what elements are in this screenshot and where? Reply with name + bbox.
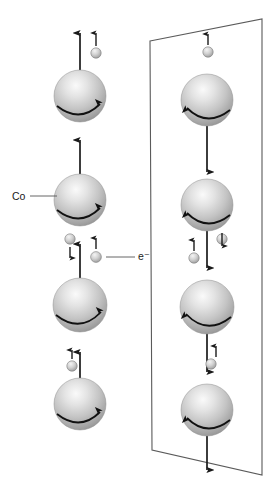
cobalt-sphere	[181, 74, 233, 126]
cobalt-sphere	[53, 278, 107, 332]
electron-sphere	[91, 48, 101, 58]
electron-with-spin	[91, 33, 101, 58]
electron-label: e⁻	[138, 250, 150, 262]
cobalt-sphere	[181, 179, 233, 231]
electron-sphere	[189, 253, 199, 263]
cobalt-sphere	[54, 70, 106, 122]
electron-with-spin	[217, 233, 227, 246]
cobalt-label: Co	[12, 190, 26, 202]
electron-with-spin	[189, 240, 199, 263]
electron-sphere	[65, 234, 75, 244]
cobalt-sphere	[181, 384, 233, 436]
diagram-canvas: Co e⁻	[0, 0, 270, 492]
electron-sphere	[206, 359, 216, 369]
electron-sphere	[67, 361, 77, 371]
electron-with-spin	[65, 234, 75, 258]
electron-sphere	[91, 252, 102, 263]
cobalt-sphere	[54, 378, 106, 430]
cobalt-sphere	[180, 280, 234, 334]
electron-with-spin-labeled	[91, 238, 102, 262]
electron-with-spin	[203, 34, 213, 57]
electron-with-spin	[67, 350, 77, 371]
spin-transport-diagram: Co e⁻	[0, 0, 270, 492]
cobalt-sphere	[54, 174, 106, 226]
electron-sphere	[203, 47, 213, 57]
